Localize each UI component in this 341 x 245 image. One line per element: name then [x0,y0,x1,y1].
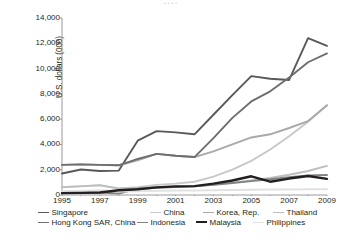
legend-row-2: Hong Kong SAR, ChinaIndonesiaMalaysiaPhi… [0,218,341,228]
series-line-hong-kong-sar-china [62,53,327,165]
legend-item-philippines[interactable]: Philippines [253,218,305,228]
plot-area: 02,0004,0006,0008,00010,00012,00014,000 [0,14,341,196]
x-axis-tick-labels: 19951997199920012003200520072009 [0,196,341,208]
legend-item-indonesia[interactable]: Indonesia [137,218,185,228]
x-axis-tick-label: 2005 [236,196,266,205]
x-axis-tick-label: 2007 [274,196,304,205]
legend-item-thailand[interactable]: Thailand [273,208,317,218]
x-axis-tick-label: 1999 [123,196,153,205]
series-line-singapore [62,38,327,173]
x-axis-tick-label: 1995 [47,196,77,205]
legend-swatch-icon [38,212,49,213]
legend-swatch-icon [273,212,284,213]
line-chart-svg [0,14,341,196]
legend-label: Indonesia [151,218,186,227]
legend-swatch-icon [38,222,49,223]
x-axis-tick-label: 1997 [85,196,115,205]
legend-item-singapore[interactable]: Singapore [38,208,88,218]
cropped-header-text: • • • • [0,0,341,7]
legend-swatch-icon [253,222,264,223]
x-axis-tick-label: 2003 [198,196,228,205]
legend-swatch-icon [150,212,161,213]
legend-label: China [164,208,185,217]
legend-label: Singapore [52,208,88,217]
legend-label: Hong Kong SAR, China [52,218,136,227]
legend-item-china[interactable]: China [150,208,184,218]
legend-item-korea-rep[interactable]: Korea, Rep. [203,208,259,218]
legend-label: Korea, Rep. [217,208,260,217]
legend-label: Philippines [267,218,306,227]
legend-swatch-icon [196,221,207,223]
legend-row-1: SingaporeChinaKorea, Rep.Thailand [0,208,341,218]
legend-swatch-icon [203,212,214,213]
chart-legend: SingaporeChinaKorea, Rep.Thailand Hong K… [0,208,341,230]
chart-figure: • • • • U.S. dollars (000) 02,0004,0006,… [0,0,341,245]
legend-label: Malaysia [210,218,242,227]
x-axis-tick-label: 2009 [312,196,341,205]
legend-item-malaysia[interactable]: Malaysia [196,218,241,228]
x-axis-tick-label: 2001 [161,196,191,205]
legend-item-hong-kong-sar-china[interactable]: Hong Kong SAR, China [38,218,136,228]
legend-swatch-icon [137,222,148,223]
legend-label: Thailand [287,208,318,217]
